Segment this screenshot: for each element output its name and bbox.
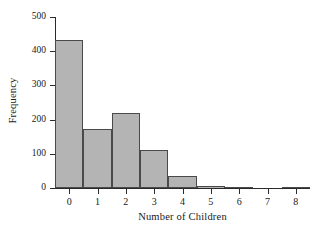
bar xyxy=(83,129,111,188)
x-tick-mark xyxy=(211,189,212,194)
y-axis-title: Frequency xyxy=(7,51,18,151)
x-tick-mark xyxy=(183,189,184,194)
bar xyxy=(140,150,168,188)
x-tick-label: 3 xyxy=(142,196,166,207)
y-tick-label: 400 xyxy=(14,46,46,56)
x-tick-mark xyxy=(126,189,127,194)
y-tick-mark xyxy=(50,188,55,189)
x-tick-mark xyxy=(239,189,240,194)
x-tick-label: 6 xyxy=(227,196,251,207)
x-tick-mark xyxy=(69,189,70,194)
x-tick-label: 4 xyxy=(171,196,195,207)
bar xyxy=(112,113,140,188)
x-tick-mark xyxy=(154,189,155,194)
x-tick-mark xyxy=(296,189,297,194)
x-tick-label: 7 xyxy=(256,196,280,207)
x-tick-mark xyxy=(98,189,99,194)
y-tick-label: 100 xyxy=(14,149,46,159)
bar xyxy=(55,40,83,188)
y-tick-label: 200 xyxy=(14,115,46,125)
y-tick-label: 500 xyxy=(14,12,46,22)
x-tick-label: 2 xyxy=(114,196,138,207)
y-tick-label: 0 xyxy=(14,183,46,193)
bar xyxy=(197,186,225,188)
x-tick-label: 5 xyxy=(199,196,223,207)
x-tick-label: 8 xyxy=(284,196,308,207)
y-tick-mark xyxy=(50,17,55,18)
bar xyxy=(168,176,196,188)
bar xyxy=(225,187,253,188)
x-axis-title: Number of Children xyxy=(55,211,310,222)
plot-area: 0100200300400500 012345678 Number of Chi… xyxy=(0,0,323,233)
x-tick-label: 0 xyxy=(57,196,81,207)
x-tick-label: 1 xyxy=(86,196,110,207)
x-tick-mark xyxy=(268,189,269,194)
bar xyxy=(282,187,310,188)
histogram-figure: 0100200300400500 012345678 Number of Chi… xyxy=(0,0,323,233)
y-tick-label: 300 xyxy=(14,80,46,90)
